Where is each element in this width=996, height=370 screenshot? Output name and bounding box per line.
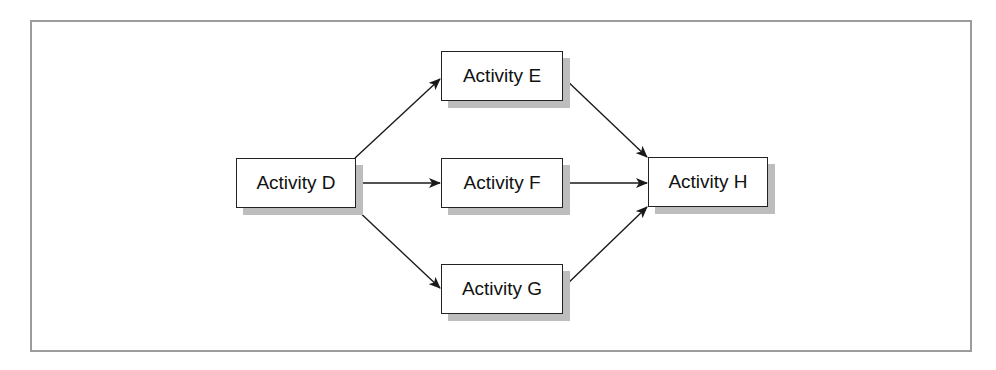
node-activity-g: Activity G <box>441 264 563 314</box>
node-label: Activity F <box>463 172 540 194</box>
node-label: Activity D <box>256 172 335 194</box>
node-activity-h: Activity H <box>648 157 768 207</box>
node-activity-e: Activity E <box>441 51 563 101</box>
node-label: Activity G <box>462 278 542 300</box>
node-activity-d: Activity D <box>236 158 356 208</box>
node-label: Activity E <box>463 65 541 87</box>
node-activity-f: Activity F <box>441 158 563 208</box>
node-label: Activity H <box>668 171 747 193</box>
